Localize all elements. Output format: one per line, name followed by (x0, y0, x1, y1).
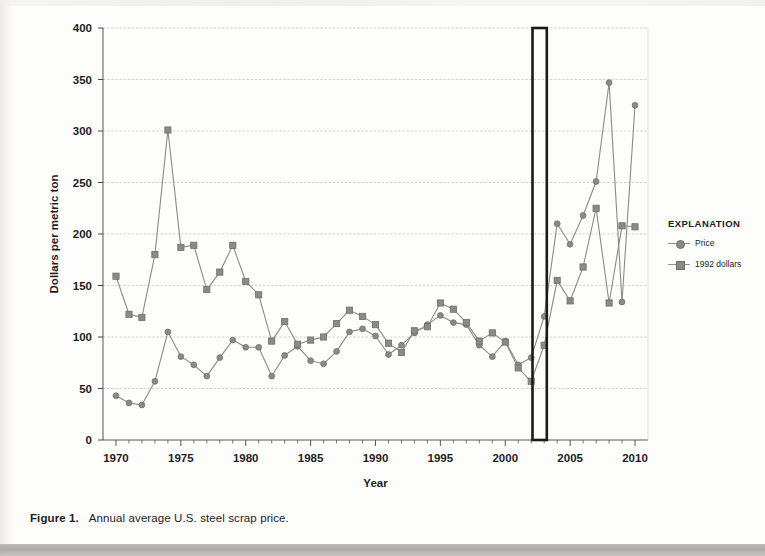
legend-label-1992-dollars: 1992 dollars (695, 259, 741, 269)
data-point-1992-dollars (463, 320, 469, 326)
data-point-1992-dollars (204, 287, 210, 293)
data-point-1992-dollars (476, 338, 482, 344)
data-point-1992-dollars (632, 224, 638, 230)
data-point-1992-dollars (139, 314, 145, 320)
data-point-1992-dollars (308, 337, 314, 343)
data-point-1992-dollars (398, 349, 404, 355)
y-axis-tick-label: 150 (73, 280, 92, 292)
data-point-price (308, 358, 314, 364)
data-point-price (126, 400, 132, 406)
data-point-1992-dollars (437, 300, 443, 306)
data-point-price (606, 80, 612, 86)
x-axis-title: Year (363, 477, 388, 489)
data-point-price (204, 373, 210, 379)
data-point-1992-dollars (321, 334, 327, 340)
data-point-1992-dollars (619, 223, 625, 229)
data-point-price (321, 361, 327, 367)
data-point-price (230, 337, 236, 343)
data-point-1992-dollars (593, 205, 599, 211)
data-point-1992-dollars (243, 278, 249, 284)
data-point-price (438, 313, 444, 319)
x-axis-tick-label: 2000 (492, 452, 518, 464)
data-point-1992-dollars (178, 244, 184, 250)
y-axis-tick-label: 50 (79, 383, 92, 395)
data-point-1992-dollars (217, 269, 223, 275)
data-point-1992-dollars (359, 313, 365, 319)
data-point-price (243, 344, 249, 350)
data-point-1992-dollars (567, 298, 573, 304)
figure-number: Figure 1. (30, 512, 79, 524)
data-point-1992-dollars (580, 264, 586, 270)
data-point-price (217, 355, 223, 361)
data-point-price (373, 333, 379, 339)
data-point-price (554, 221, 560, 227)
legend-item-price: Price (668, 238, 763, 248)
data-point-1992-dollars (126, 311, 132, 317)
legend-marker-circle-icon (668, 239, 690, 248)
x-axis-tick-label: 2005 (557, 452, 583, 464)
legend-item-1992-dollars: 1992 dollars (668, 259, 763, 269)
data-point-1992-dollars (295, 341, 301, 347)
x-axis-tick-label: 1970 (103, 452, 129, 464)
data-point-1992-dollars (269, 338, 275, 344)
data-point-price (489, 354, 495, 360)
x-axis-tick-label: 2010 (622, 452, 648, 464)
data-point-price (165, 329, 171, 335)
data-point-price (191, 362, 197, 368)
series-line-1992-dollars (116, 130, 635, 381)
data-point-price (347, 329, 353, 335)
steel-scrap-price-chart: 0501001502002503003504001970197519801985… (0, 0, 765, 500)
data-point-1992-dollars (113, 273, 119, 279)
data-point-1992-dollars (282, 318, 288, 324)
data-point-price (282, 353, 288, 359)
x-axis-tick-label: 1995 (428, 452, 454, 464)
y-axis-title: Dollars per metric ton (48, 175, 60, 294)
data-point-1992-dollars (256, 292, 262, 298)
figure-1: 0501001502002503003504001970197519801985… (0, 0, 765, 556)
data-point-1992-dollars (515, 365, 521, 371)
data-point-1992-dollars (165, 127, 171, 133)
y-axis-tick-label: 200 (73, 228, 92, 240)
data-point-1992-dollars (385, 340, 391, 346)
data-point-1992-dollars (411, 328, 417, 334)
data-point-price (269, 373, 275, 379)
data-point-1992-dollars (230, 242, 236, 248)
data-point-price (334, 349, 340, 355)
data-point-1992-dollars (502, 339, 508, 345)
data-point-price (360, 326, 366, 332)
data-point-1992-dollars (372, 322, 378, 328)
y-axis-tick-label: 300 (73, 125, 92, 137)
y-axis-tick-label: 350 (73, 74, 92, 86)
chart-legend: EXPLANATION Price 1992 dollars (668, 218, 763, 280)
figure-caption-text: Annual average U.S. steel scrap price. (89, 512, 289, 524)
data-point-1992-dollars (334, 321, 340, 327)
x-axis-tick-label: 1990 (363, 452, 389, 464)
x-axis-tick-label: 1980 (233, 452, 259, 464)
data-point-1992-dollars (450, 306, 456, 312)
data-point-price (113, 393, 119, 399)
figure-caption: Figure 1.Annual average U.S. steel scrap… (30, 512, 289, 524)
y-axis-tick-label: 100 (73, 331, 92, 343)
x-axis-tick-label: 1975 (168, 452, 194, 464)
data-point-price (632, 102, 638, 108)
data-point-1992-dollars (606, 300, 612, 306)
legend-title: EXPLANATION (668, 218, 763, 229)
data-point-price (152, 378, 158, 384)
y-axis-tick-label: 400 (73, 22, 92, 34)
data-point-price (567, 241, 573, 247)
x-axis-tick-label: 1985 (298, 452, 324, 464)
data-point-1992-dollars (554, 277, 560, 283)
data-point-price (178, 354, 184, 360)
data-point-1992-dollars (346, 307, 352, 313)
data-point-price (619, 299, 625, 305)
data-point-price (580, 213, 586, 219)
data-point-price (451, 320, 457, 326)
legend-label-price: Price (695, 238, 714, 248)
data-point-price (386, 352, 392, 358)
page-bottom-band (0, 544, 765, 556)
data-point-1992-dollars (191, 242, 197, 248)
data-point-1992-dollars (424, 324, 430, 330)
data-point-1992-dollars (152, 252, 158, 258)
y-axis-tick-label: 0 (86, 434, 92, 446)
data-point-1992-dollars (489, 330, 495, 336)
